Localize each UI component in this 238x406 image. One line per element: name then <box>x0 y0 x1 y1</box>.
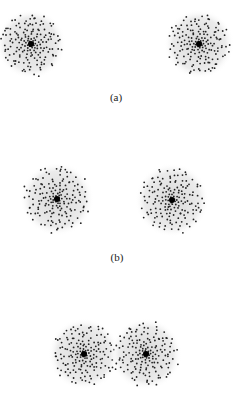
particle-cluster <box>110 318 182 390</box>
particle-cluster <box>20 162 94 236</box>
particle-cluster <box>48 318 120 390</box>
figure-canvas <box>0 0 238 406</box>
particle-cluster <box>0 9 66 79</box>
particle-cluster <box>164 9 234 79</box>
particle-cluster <box>135 163 209 237</box>
panel-b-label: (b) <box>111 251 124 263</box>
panel-a-label: (a) <box>110 91 122 103</box>
